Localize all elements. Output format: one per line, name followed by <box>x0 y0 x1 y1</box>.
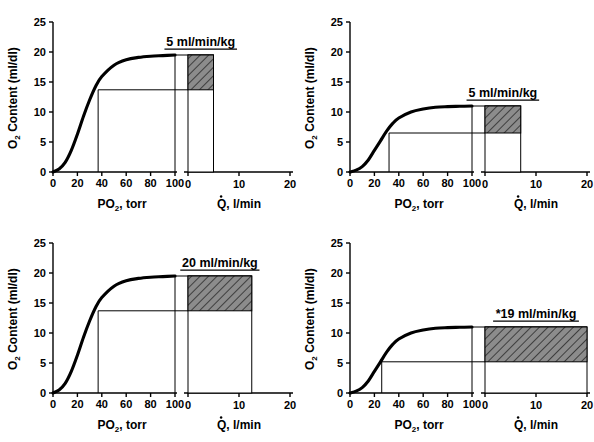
y-tick-label: 15 <box>331 76 343 88</box>
box-label-group: 5 ml/min/kg <box>467 86 540 100</box>
y-tick-label: 25 <box>34 16 46 28</box>
svg-text:O2 Content (ml/dl): O2 Content (ml/dl) <box>303 268 319 370</box>
o2-consumption-label: 20 ml/min/kg <box>182 256 258 270</box>
y-tick-label: 10 <box>34 106 46 118</box>
y-tick-label: 0 <box>40 166 46 178</box>
figure-container: 0510152025020406080100010205 ml/min/kgO2… <box>0 0 594 442</box>
q-tick-label: 20 <box>284 399 296 411</box>
y-tick-label: 20 <box>331 46 343 58</box>
svg-text:Q, l/min: Q, l/min <box>217 418 261 432</box>
x-tick-label: 40 <box>393 177 405 189</box>
y-tick-label: 5 <box>337 357 343 369</box>
x-tick-label: 20 <box>368 398 380 410</box>
x-axis-title-q: Q, l/min <box>217 195 261 211</box>
y-tick-label: 10 <box>34 327 46 339</box>
x-axis-title-po2: PO2, torr <box>394 418 443 434</box>
q-overdot <box>220 416 223 419</box>
q-tick-label: 10 <box>233 399 245 411</box>
panel-plot-normal-exercise: 05101520250204060801000102020 ml/min/kgO… <box>0 221 297 442</box>
o2-consumption-area <box>485 327 587 362</box>
x-tick-label: 60 <box>120 177 132 189</box>
dissociation-curve <box>350 106 472 172</box>
cardiac-output-box <box>188 276 252 393</box>
svg-text:O2 Content (ml/dl): O2 Content (ml/dl) <box>6 47 22 149</box>
dissociation-curve <box>53 276 175 393</box>
x-tick-label: 100 <box>166 398 184 410</box>
panel-anemia-rest: 0510152025020406080100010205 ml/min/kgO2… <box>297 0 594 221</box>
x-tick-label: 40 <box>96 398 108 410</box>
panel-plot-normal-rest: 0510152025020406080100010205 ml/min/kgO2… <box>0 0 297 221</box>
x-axis-title-q: Q, l/min <box>514 195 558 211</box>
svg-text:O2 Content (ml/dl): O2 Content (ml/dl) <box>303 47 319 149</box>
q-tick-label: 10 <box>530 178 542 190</box>
x-tick-label: 80 <box>144 177 156 189</box>
x-tick-label: 20 <box>71 177 83 189</box>
o2-consumption-label: 5 ml/min/kg <box>468 86 537 100</box>
x-axis-title-po2: PO2, torr <box>394 197 443 213</box>
panel-plot-anemia-exercise: 051015202502040608010001020*19 ml/min/kg… <box>297 221 594 442</box>
o2-consumption-area <box>485 106 521 133</box>
x-tick-label: 20 <box>368 177 380 189</box>
y-tick-label: 0 <box>337 166 343 178</box>
x-axis-title-q: Q, l/min <box>217 416 261 432</box>
y-tick-label: 5 <box>337 136 343 148</box>
x-tick-label: 40 <box>393 398 405 410</box>
x-tick-label: 100 <box>463 177 481 189</box>
y-tick-label: 20 <box>34 46 46 58</box>
panel-anemia-exercise: 051015202502040608010001020*19 ml/min/kg… <box>297 221 594 442</box>
left-axes: 0510152025020406080100 <box>34 237 184 410</box>
x-axis-title-po2: PO2, torr <box>97 418 146 434</box>
y-tick-label: 25 <box>331 16 343 28</box>
q-tick-label: 10 <box>233 178 245 190</box>
right-axis: 01020 <box>481 172 593 190</box>
dissociation-curve <box>350 327 472 393</box>
q-tick-label: 0 <box>185 399 191 411</box>
q-tick-label: 10 <box>530 399 542 411</box>
y-axis-title: O2 Content (ml/dl) <box>6 47 22 149</box>
x-tick-label: 40 <box>96 177 108 189</box>
y-tick-label: 15 <box>34 297 46 309</box>
y-tick-label: 20 <box>34 267 46 279</box>
x-tick-label: 80 <box>441 177 453 189</box>
right-axis: 01020 <box>184 172 296 190</box>
x-tick-label: 80 <box>441 398 453 410</box>
box-label-group: 5 ml/min/kg <box>164 35 237 49</box>
q-tick-label: 0 <box>482 399 488 411</box>
x-tick-label: 20 <box>71 398 83 410</box>
y-tick-label: 0 <box>337 387 343 399</box>
x-tick-label: 0 <box>347 398 353 410</box>
panel-normal-exercise: 05101520250204060801000102020 ml/min/kgO… <box>0 221 297 442</box>
cardiac-output-box <box>485 327 587 393</box>
left-axes: 0510152025020406080100 <box>331 16 481 189</box>
q-tick-label: 20 <box>581 178 593 190</box>
q-tick-label: 0 <box>185 178 191 190</box>
y-tick-label: 20 <box>331 267 343 279</box>
q-overdot <box>517 195 520 198</box>
y-tick-label: 15 <box>331 297 343 309</box>
cardiac-output-box <box>188 55 214 172</box>
x-tick-label: 0 <box>347 177 353 189</box>
x-tick-label: 60 <box>417 177 429 189</box>
x-tick-label: 100 <box>166 177 184 189</box>
cardiac-output-box <box>485 106 521 172</box>
x-tick-label: 60 <box>417 398 429 410</box>
q-tick-label: 20 <box>581 399 593 411</box>
y-axis-title: O2 Content (ml/dl) <box>6 268 22 370</box>
panel-plot-anemia-rest: 0510152025020406080100010205 ml/min/kgO2… <box>297 0 594 221</box>
q-overdot <box>517 416 520 419</box>
o2-consumption-area <box>188 276 252 311</box>
x-axis-title-po2: PO2, torr <box>97 197 146 213</box>
box-label-group: *19 ml/min/kg <box>493 307 579 321</box>
q-tick-label: 0 <box>482 178 488 190</box>
o2-consumption-area <box>188 55 214 90</box>
x-tick-label: 0 <box>50 177 56 189</box>
y-tick-label: 25 <box>331 237 343 249</box>
svg-text:Q, l/min: Q, l/min <box>217 197 261 211</box>
y-tick-label: 5 <box>40 136 46 148</box>
x-tick-label: 80 <box>144 398 156 410</box>
left-axes: 0510152025020406080100 <box>34 16 184 189</box>
o2-consumption-label: 5 ml/min/kg <box>166 35 235 49</box>
y-tick-label: 5 <box>40 357 46 369</box>
y-tick-label: 15 <box>34 76 46 88</box>
panel-normal-rest: 0510152025020406080100010205 ml/min/kgO2… <box>0 0 297 221</box>
